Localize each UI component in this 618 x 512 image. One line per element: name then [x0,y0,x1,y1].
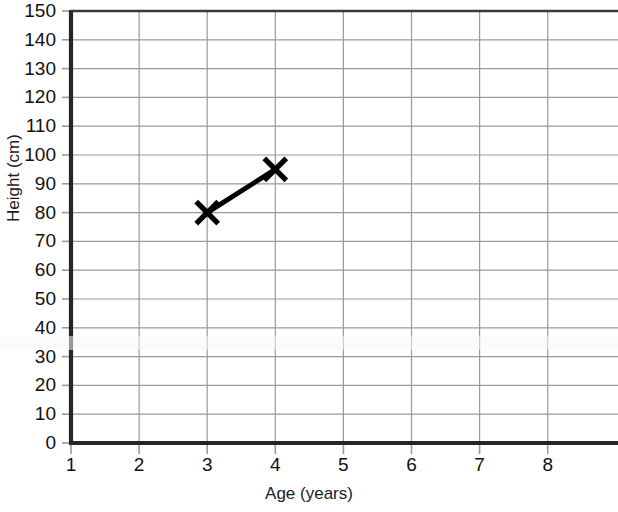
x-tick-label: 8 [528,455,568,474]
x-tick-label: 2 [119,455,159,474]
x-tick-label: 6 [392,455,432,474]
data-series [196,158,286,223]
x-tick-label: 3 [187,455,227,474]
x-axis-tick-labels: 12345678 [0,455,618,479]
grid-lines [71,11,618,443]
line-chart: Height (cm) 1501401301201101009080706050… [0,0,618,512]
x-tick-label: 7 [460,455,500,474]
plot-area [0,0,618,512]
x-tick-label: 4 [255,455,295,474]
x-tick-label: 5 [323,455,363,474]
series-line [207,169,275,212]
x-axis-title: Age (years) [0,484,618,504]
axis-tick-marks [62,11,548,454]
x-tick-label: 1 [51,455,91,474]
